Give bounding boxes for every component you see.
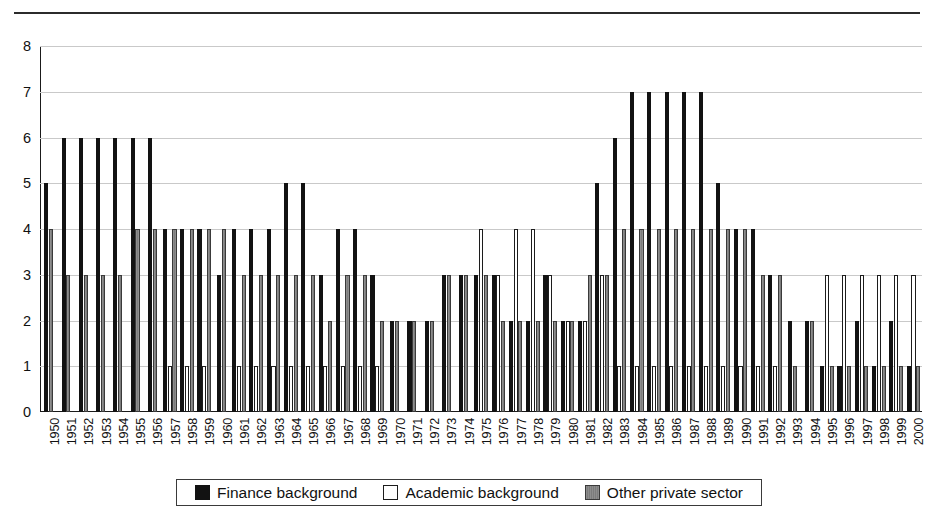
year-group-1990 xyxy=(732,46,749,412)
x-tick-cell: 1977 xyxy=(507,416,524,476)
bar-finance-1975 xyxy=(474,275,478,412)
x-tick-cell: 1960 xyxy=(213,416,230,476)
x-tick-cell: 1991 xyxy=(749,416,766,476)
bar-finance-1954 xyxy=(113,138,117,413)
bar-other-1996 xyxy=(847,366,851,412)
bar-finance-1958 xyxy=(180,229,184,412)
bar-finance-1974 xyxy=(459,275,463,412)
legend-label: Finance background xyxy=(217,484,357,502)
bar-finance-1997 xyxy=(855,321,859,413)
x-tick-cell: 1999 xyxy=(888,416,905,476)
legend-label: Academic background xyxy=(405,484,558,502)
bar-other-1972 xyxy=(430,321,434,413)
year-group-1998 xyxy=(870,46,887,412)
x-tick-labels: 1950195119521953195419551956195719581959… xyxy=(40,416,922,476)
bar-finance-1966 xyxy=(319,275,323,412)
bar-finance-1978 xyxy=(526,321,530,413)
x-tick-cell: 1954 xyxy=(109,416,126,476)
bar-other-1979 xyxy=(553,321,557,413)
bar-other-1987 xyxy=(691,229,695,412)
bar-finance-1963 xyxy=(267,229,271,412)
x-tick-cell: 1953 xyxy=(92,416,109,476)
bar-finance-1972 xyxy=(425,321,429,413)
year-group-1953 xyxy=(92,46,109,412)
bar-finance-1981 xyxy=(578,321,582,413)
bar-other-1995 xyxy=(830,366,834,412)
bar-finance-1986 xyxy=(665,92,669,412)
x-tick-cell: 1970 xyxy=(386,416,403,476)
bar-academic-1964 xyxy=(289,366,293,412)
year-group-1995 xyxy=(818,46,835,412)
bar-other-1985 xyxy=(657,229,661,412)
bar-academic-1962 xyxy=(254,366,258,412)
bar-academic-1979 xyxy=(548,275,552,412)
bar-finance-1950 xyxy=(44,183,48,412)
legend-label: Other private sector xyxy=(607,484,743,502)
bar-other-1997 xyxy=(864,366,868,412)
legend-item-academic: Academic background xyxy=(383,484,558,502)
year-group-1959 xyxy=(196,46,213,412)
year-group-2000 xyxy=(905,46,922,412)
year-group-1993 xyxy=(784,46,801,412)
x-tick-cell: 1997 xyxy=(853,416,870,476)
bar-other-1970 xyxy=(395,321,399,413)
year-group-1976 xyxy=(490,46,507,412)
bar-other-1989 xyxy=(726,229,730,412)
bar-finance-1977 xyxy=(509,321,513,413)
bar-finance-2000 xyxy=(907,366,911,412)
bar-other-1974 xyxy=(464,275,468,412)
bar-finance-1987 xyxy=(682,92,686,412)
bar-other-1961 xyxy=(242,275,246,412)
year-group-1957 xyxy=(161,46,178,412)
year-group-1952 xyxy=(75,46,92,412)
x-tick-cell: 1965 xyxy=(299,416,316,476)
x-tick-cell: 1983 xyxy=(611,416,628,476)
year-group-1958 xyxy=(178,46,195,412)
bar-finance-1994 xyxy=(805,321,809,413)
bar-finance-1991 xyxy=(751,229,755,412)
legend-item-finance: Finance background xyxy=(195,484,357,502)
bar-other-1973 xyxy=(447,275,451,412)
bar-finance-1969 xyxy=(370,275,374,412)
x-tick-cell: 1992 xyxy=(766,416,783,476)
y-tick-label: 5 xyxy=(23,176,31,191)
chart-legend: Finance backgroundAcademic backgroundOth… xyxy=(176,479,762,506)
year-group-1960 xyxy=(213,46,230,412)
bar-other-1980 xyxy=(570,321,574,413)
bar-academic-1958 xyxy=(185,366,189,412)
bar-finance-1976 xyxy=(492,275,496,412)
x-tick-cell: 1975 xyxy=(472,416,489,476)
year-group-1987 xyxy=(680,46,697,412)
bar-finance-1990 xyxy=(734,229,738,412)
bar-academic-1990 xyxy=(738,366,742,412)
x-tick-cell: 1961 xyxy=(230,416,247,476)
bar-academic-1986 xyxy=(669,366,673,412)
bar-finance-1999 xyxy=(889,321,893,413)
bar-finance-1962 xyxy=(249,229,253,412)
bar-finance-1992 xyxy=(768,275,772,412)
year-group-1997 xyxy=(853,46,870,412)
year-group-1989 xyxy=(715,46,732,412)
bar-academic-1981 xyxy=(583,321,587,413)
bar-academic-1977 xyxy=(514,229,518,412)
year-group-1983 xyxy=(611,46,628,412)
x-tick-cell: 1998 xyxy=(870,416,887,476)
bar-other-1992 xyxy=(778,275,782,412)
x-tick-cell: 1973 xyxy=(438,416,455,476)
bar-finance-1971 xyxy=(407,321,411,413)
bar-other-1954 xyxy=(118,275,122,412)
bar-other-1986 xyxy=(674,229,678,412)
legend-swatch-academic-icon xyxy=(383,485,398,500)
legend-swatch-finance-icon xyxy=(195,485,210,500)
y-tick-label: 1 xyxy=(23,359,31,374)
y-tick-label: 2 xyxy=(23,313,31,328)
year-group-1991 xyxy=(749,46,766,412)
bar-other-2000 xyxy=(916,366,920,412)
bar-academic-1999 xyxy=(894,275,898,412)
bar-finance-1979 xyxy=(543,275,547,412)
bar-other-1976 xyxy=(501,321,505,413)
x-tick-cell: 1955 xyxy=(126,416,143,476)
bar-finance-1959 xyxy=(197,229,201,412)
bar-academic-1991 xyxy=(756,366,760,412)
bar-other-1975 xyxy=(484,275,488,412)
